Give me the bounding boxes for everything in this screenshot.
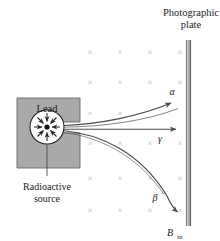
field-cross-icon: × (87, 173, 92, 183)
beta-ray-label: β − (152, 189, 166, 203)
field-cross-icon: × (147, 205, 152, 215)
field-cross-icon: × (147, 47, 152, 57)
field-cross-icon: × (177, 173, 182, 183)
beta-ray-label-symbol: β (152, 192, 158, 203)
field-cross-icon: × (87, 77, 92, 87)
radioactive-source-label-line2: source (34, 193, 61, 204)
field-cross-icon: × (177, 205, 182, 215)
beta-ray-label-charge: − (161, 189, 165, 198)
magnetic-field-label: B in (167, 227, 183, 241)
field-cross-icon: × (147, 77, 152, 87)
figure-canvas: × × × × × × × × × × × × × × × × × × × × … (0, 0, 220, 241)
magnetic-field-symbol: B (167, 227, 173, 238)
alpha-ray-label: α (169, 86, 175, 97)
field-cross-icon: × (117, 173, 122, 183)
field-cross-icon: × (117, 77, 122, 87)
source-dot-icon (44, 124, 49, 129)
magnetic-field-subscript: in (177, 233, 183, 241)
radioactivity-magnetic-separation-figure: × × × × × × × × × × × × × × × × × × × × … (0, 0, 220, 241)
field-cross-icon: × (87, 108, 92, 118)
field-cross-icon: × (117, 47, 122, 57)
photographic-plate (186, 40, 191, 226)
field-cross-icon: × (177, 138, 182, 148)
field-cross-icon: × (87, 47, 92, 57)
field-cross-icon: × (87, 138, 92, 148)
lead-label: Lead (37, 103, 59, 114)
field-cross-icon: × (177, 47, 182, 57)
field-cross-icon: × (117, 108, 122, 118)
radioactive-source (30, 110, 64, 144)
radioactive-source-label-line1: Radioactive (23, 181, 71, 192)
field-cross-icon: × (117, 205, 122, 215)
gamma-ray-label: γ (158, 133, 163, 144)
field-cross-icon: × (87, 205, 92, 215)
photographic-plate-label-line2: plate (181, 19, 202, 30)
field-cross-icon: × (147, 138, 152, 148)
field-cross-icon: × (117, 138, 122, 148)
field-cross-icon: × (177, 77, 182, 87)
magnetic-field-cross-grid: × × × × × × × × × × × × × × × × × × × × … (87, 47, 182, 215)
photographic-plate-label-line1: Photographic (163, 7, 219, 18)
beta-ray-path-tip (167, 196, 178, 212)
